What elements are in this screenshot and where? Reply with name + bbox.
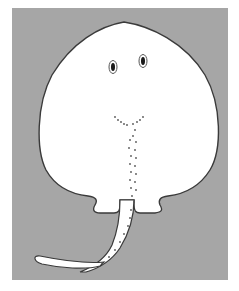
illustration-frame [12,8,228,280]
left-eye [109,61,117,74]
stingray-illustration [12,8,228,280]
right-eye [139,55,147,68]
